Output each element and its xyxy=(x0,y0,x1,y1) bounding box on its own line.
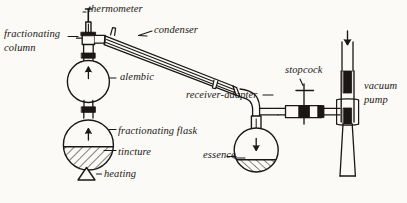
distillation-diagram: thermometer fractionating column condens… xyxy=(0,0,407,203)
label-column-line2: column xyxy=(4,42,36,54)
fractionating-flask xyxy=(62,120,116,173)
label-vacuum-pump-line2: pump xyxy=(364,94,388,106)
essence-flask xyxy=(233,128,280,176)
label-fractionating-column: fractionating xyxy=(4,28,60,40)
vacuum-pump xyxy=(337,31,359,176)
alembic xyxy=(67,61,116,119)
label-vacuum-pump: vacuum xyxy=(364,80,397,92)
label-receiver-adapter: receiver-adapter xyxy=(186,89,258,101)
label-alembic: alembic xyxy=(120,71,154,83)
label-tincture: tincture xyxy=(118,146,151,158)
label-stopcock: stopcock xyxy=(285,64,323,76)
label-thermometer: thermometer xyxy=(88,3,143,15)
label-essence: essence xyxy=(203,149,236,161)
stopcock xyxy=(278,84,340,124)
label-heating: heating xyxy=(104,168,136,180)
essence xyxy=(233,160,280,176)
fractionating-column xyxy=(77,32,96,61)
apparatus-drawing xyxy=(0,0,407,203)
condenser xyxy=(95,28,240,97)
label-condenser: condenser xyxy=(154,24,198,36)
label-fractionating-flask: fractionating flask xyxy=(118,125,197,137)
